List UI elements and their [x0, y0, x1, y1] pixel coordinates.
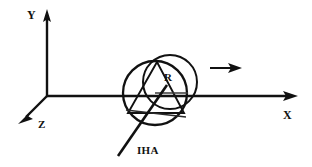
disc-assembly [123, 55, 197, 125]
iha-label: IHA [137, 145, 159, 156]
radius-label: R [164, 72, 172, 83]
velocity-arrow [210, 63, 242, 73]
y-axis-label: Y [27, 9, 36, 21]
x-axis-label: X [283, 109, 292, 121]
figure-canvas: Y X Z R IHA [0, 0, 312, 167]
diagram-vector-graphics [0, 0, 312, 167]
y-axis [43, 9, 51, 96]
z-axis-label: Z [38, 119, 45, 130]
